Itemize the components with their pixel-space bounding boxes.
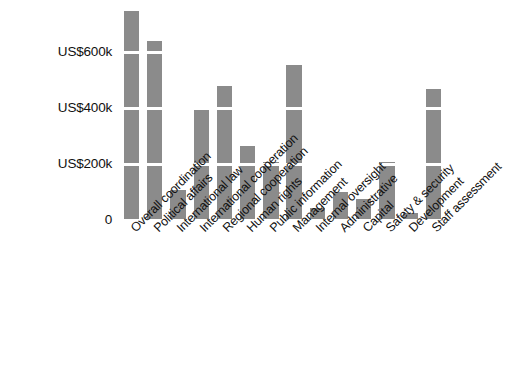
x-axis-category-labels: Overall coordinationPolitical affairsInt… (0, 0, 453, 387)
bar-chart: 0US$200kUS$400kUS$600k Overall coordinat… (0, 0, 453, 387)
